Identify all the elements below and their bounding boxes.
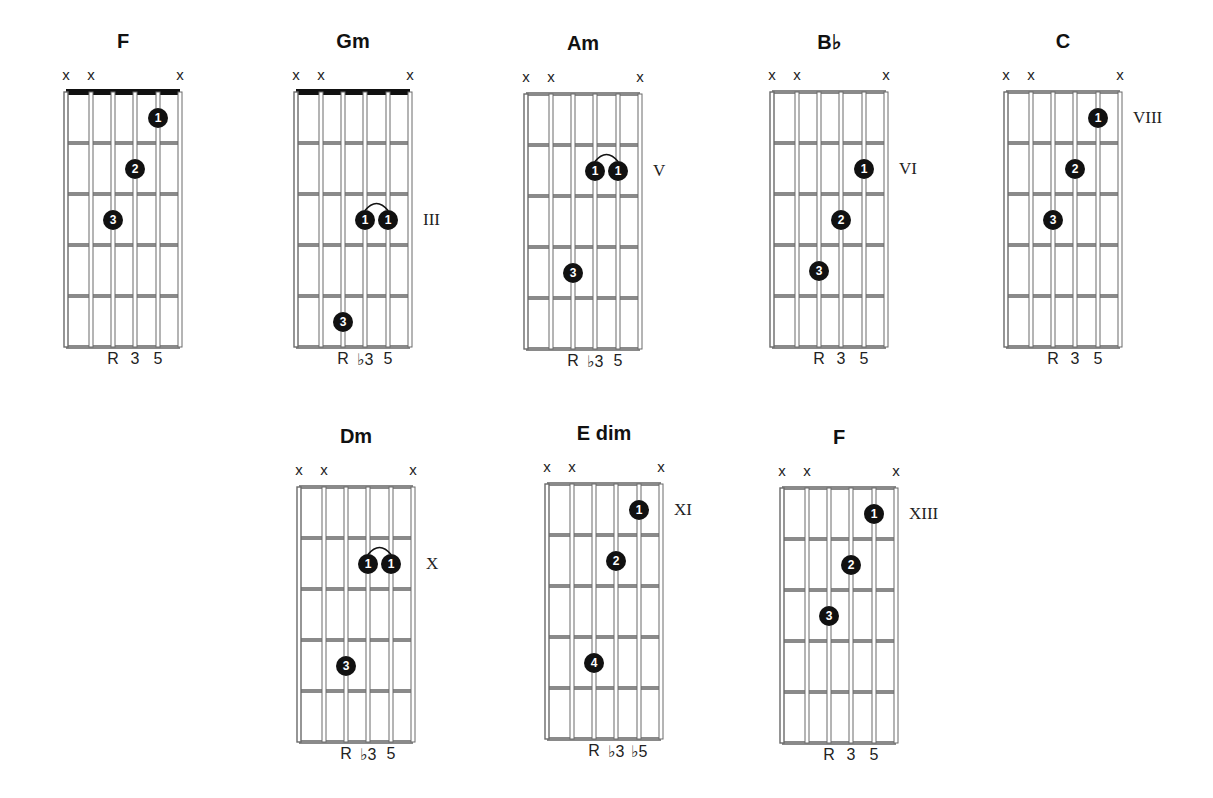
fret-position-label: X bbox=[426, 554, 438, 574]
guitar-string bbox=[64, 92, 68, 347]
finger-dot: 3 bbox=[809, 261, 829, 281]
finger-dot: 2 bbox=[125, 159, 145, 179]
guitar-string bbox=[341, 92, 345, 347]
chord-diagram: Fxxx123R35 bbox=[55, 30, 235, 390]
fret-wire bbox=[1006, 192, 1120, 196]
chord-diagram: Cxxx123VIIIR35 bbox=[995, 30, 1175, 390]
interval-label: 3 bbox=[829, 350, 853, 368]
finger-dot: 3 bbox=[1043, 210, 1063, 230]
fretboard bbox=[771, 426, 951, 756]
fretboard bbox=[536, 422, 716, 752]
guitar-string bbox=[872, 488, 876, 743]
fret-position-label: III bbox=[423, 210, 440, 230]
fretboard bbox=[761, 30, 941, 360]
fret-wire bbox=[772, 243, 886, 247]
fret-wire bbox=[782, 639, 896, 643]
fret-wire bbox=[1006, 294, 1120, 298]
finger-dot: 2 bbox=[831, 210, 851, 230]
guitar-string bbox=[1118, 92, 1122, 347]
fret-wire bbox=[782, 537, 896, 541]
fret-wire bbox=[296, 243, 410, 247]
fret-wire bbox=[1006, 345, 1120, 349]
interval-label: R bbox=[817, 746, 841, 764]
fretboard bbox=[288, 425, 468, 755]
fret-position-label: V bbox=[653, 161, 665, 181]
fret-position-label: VIII bbox=[1133, 108, 1162, 128]
fret-wire bbox=[296, 192, 410, 196]
chord-diagram: Dmxxx113XR♭35 bbox=[288, 425, 468, 785]
interval-label: ♭3 bbox=[353, 350, 377, 369]
fret-position-label: XI bbox=[674, 500, 692, 520]
fret-wire bbox=[782, 588, 896, 592]
fret-wire bbox=[299, 638, 413, 642]
fret-wire bbox=[782, 690, 896, 694]
finger-dot: 1 bbox=[608, 161, 628, 181]
finger-dot: 3 bbox=[563, 263, 583, 283]
guitar-string bbox=[849, 488, 853, 743]
fret-wire bbox=[772, 294, 886, 298]
finger-dot: 3 bbox=[333, 312, 353, 332]
finger-dot: 2 bbox=[606, 551, 626, 571]
fret-wire bbox=[547, 686, 661, 690]
interval-label: 5 bbox=[376, 350, 400, 368]
fret-wire bbox=[299, 740, 413, 744]
guitar-string bbox=[156, 92, 160, 347]
fret-wire bbox=[66, 345, 180, 349]
fretboard bbox=[515, 32, 695, 362]
finger-dot: 1 bbox=[378, 210, 398, 230]
fret-wire bbox=[1006, 141, 1120, 145]
interval-label: R bbox=[101, 350, 125, 368]
finger-dot: 1 bbox=[355, 210, 375, 230]
fretboard bbox=[285, 30, 465, 360]
interval-label: 5 bbox=[379, 745, 403, 763]
fret-wire bbox=[772, 141, 886, 145]
finger-dot: 1 bbox=[585, 161, 605, 181]
fret-wire bbox=[526, 245, 640, 249]
guitar-string bbox=[862, 92, 866, 347]
guitar-string bbox=[1096, 92, 1100, 347]
guitar-string bbox=[319, 92, 323, 347]
guitar-string bbox=[545, 484, 549, 739]
finger-dot: 2 bbox=[841, 555, 861, 575]
guitar-string bbox=[1004, 92, 1008, 347]
fret-wire bbox=[547, 737, 661, 741]
chord-diagram: Fxxx123XIIIR35 bbox=[771, 426, 951, 786]
interval-label: 5 bbox=[1086, 350, 1110, 368]
guitar-string bbox=[817, 92, 821, 347]
fret-wire bbox=[526, 143, 640, 147]
guitar-string bbox=[89, 92, 93, 347]
fret-wire bbox=[547, 533, 661, 537]
interval-labels: R35 bbox=[55, 350, 235, 372]
guitar-string bbox=[884, 92, 888, 347]
interval-labels: R♭35 bbox=[285, 350, 465, 372]
finger-dot: 1 bbox=[864, 504, 884, 524]
fret-wire bbox=[772, 192, 886, 196]
fret-wire bbox=[66, 243, 180, 247]
interval-label: ♭5 bbox=[627, 742, 651, 761]
interval-label: 5 bbox=[146, 350, 170, 368]
fret-wire bbox=[299, 689, 413, 693]
guitar-string bbox=[571, 94, 575, 349]
finger-dot: 1 bbox=[854, 159, 874, 179]
finger-dot: 1 bbox=[148, 108, 168, 128]
chord-diagram: E dimxxx124XIR♭3♭5 bbox=[536, 422, 716, 782]
interval-labels: R♭3♭5 bbox=[536, 742, 716, 764]
guitar-string bbox=[344, 487, 348, 742]
fret-position-label: XIII bbox=[909, 504, 938, 524]
finger-dot: 1 bbox=[358, 554, 378, 574]
finger-dot: 3 bbox=[336, 656, 356, 676]
nut bbox=[66, 89, 180, 95]
interval-label: R bbox=[561, 352, 585, 370]
fret-wire bbox=[66, 141, 180, 145]
fretboard bbox=[995, 30, 1175, 360]
interval-label: 3 bbox=[839, 746, 863, 764]
interval-label: 5 bbox=[862, 746, 886, 764]
interval-label: 5 bbox=[852, 350, 876, 368]
interval-label: ♭3 bbox=[356, 745, 380, 764]
fret-wire bbox=[296, 141, 410, 145]
fret-wire bbox=[66, 192, 180, 196]
interval-label: 3 bbox=[1063, 350, 1087, 368]
fret-wire bbox=[296, 294, 410, 298]
guitar-string bbox=[659, 484, 663, 739]
fret-wire bbox=[782, 486, 896, 490]
